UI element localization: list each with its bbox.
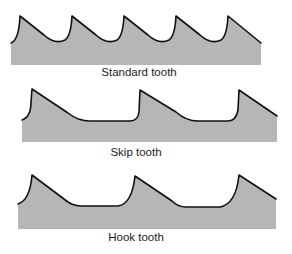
hook-tooth-label: Hook tooth [108, 231, 164, 243]
skip-tooth-blade [22, 89, 277, 142]
saw-tooth-diagram [0, 0, 292, 254]
standard-tooth-blade [11, 16, 261, 65]
hook-tooth-blade [18, 175, 276, 229]
skip-tooth-label: Skip tooth [110, 146, 161, 158]
standard-tooth-label: Standard tooth [101, 66, 176, 78]
